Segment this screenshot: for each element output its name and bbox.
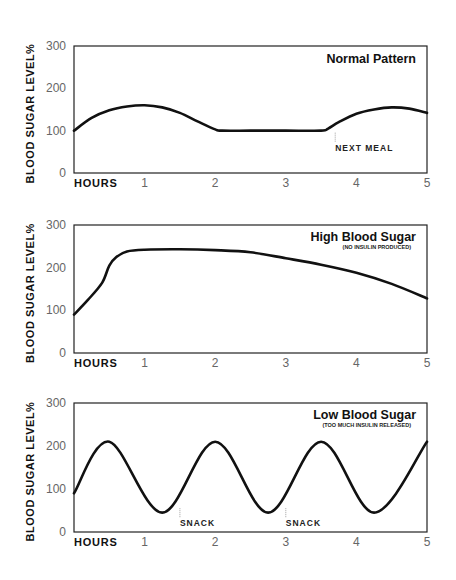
y-tick-label: 0 <box>59 525 66 539</box>
x-tick-label: 2 <box>212 356 219 370</box>
x-axis-label: HOURS <box>74 177 118 189</box>
x-tick-label: 4 <box>353 176 360 190</box>
series-line <box>74 249 427 314</box>
y-tick-label: 200 <box>46 261 66 275</box>
x-tick-label: 4 <box>353 535 360 549</box>
y-tick-label: 100 <box>46 124 66 138</box>
chart-panel-2: BLOOD SUGAR LEVEL%0100200300HOURS12345Hi… <box>24 218 431 370</box>
charts-svg: BLOOD SUGAR LEVEL%0100200300HOURS12345No… <box>0 0 456 580</box>
series-line <box>74 105 427 131</box>
x-tick-label: 1 <box>141 356 148 370</box>
x-tick-label: 5 <box>424 535 431 549</box>
y-tick-label: 300 <box>46 39 66 53</box>
chart-title: Normal Pattern <box>326 52 416 66</box>
y-axis-label: BLOOD SUGAR LEVEL% <box>24 402 36 542</box>
y-tick-label: 0 <box>59 346 66 360</box>
y-tick-label: 200 <box>46 81 66 95</box>
x-tick-label: 3 <box>282 535 289 549</box>
chart-panel-3: BLOOD SUGAR LEVEL%0100200300HOURS12345Lo… <box>24 396 431 549</box>
y-tick-label: 100 <box>46 482 66 496</box>
y-tick-label: 100 <box>46 303 66 317</box>
x-tick-label: 2 <box>212 176 219 190</box>
y-tick-label: 200 <box>46 439 66 453</box>
annotation-label: SNACK <box>286 518 321 528</box>
chart-title: High Blood Sugar <box>310 230 416 244</box>
y-axis-label: BLOOD SUGAR LEVEL% <box>24 223 36 363</box>
chart-subtitle: (TOO MUCH INSULIN RELEASED) <box>322 422 411 428</box>
y-tick-label: 300 <box>46 396 66 410</box>
x-tick-label: 4 <box>353 356 360 370</box>
annotation-label: NEXT MEAL <box>335 143 393 153</box>
chart-subtitle: (NO INSULIN PRODUCED) <box>343 244 412 250</box>
x-tick-label: 2 <box>212 535 219 549</box>
chart-title: Low Blood Sugar <box>313 408 416 422</box>
y-axis-label: BLOOD SUGAR LEVEL% <box>24 44 36 184</box>
x-tick-label: 5 <box>424 356 431 370</box>
series-line <box>74 442 427 513</box>
x-axis-label: HOURS <box>74 536 118 548</box>
y-tick-label: 300 <box>46 218 66 232</box>
x-tick-label: 1 <box>141 176 148 190</box>
x-tick-label: 3 <box>282 356 289 370</box>
y-tick-label: 0 <box>59 166 66 180</box>
x-tick-label: 5 <box>424 176 431 190</box>
annotation-label: SNACK <box>180 518 215 528</box>
x-tick-label: 3 <box>282 176 289 190</box>
x-axis-label: HOURS <box>74 357 118 369</box>
x-tick-label: 1 <box>141 535 148 549</box>
chart-panel-1: BLOOD SUGAR LEVEL%0100200300HOURS12345No… <box>24 39 431 190</box>
